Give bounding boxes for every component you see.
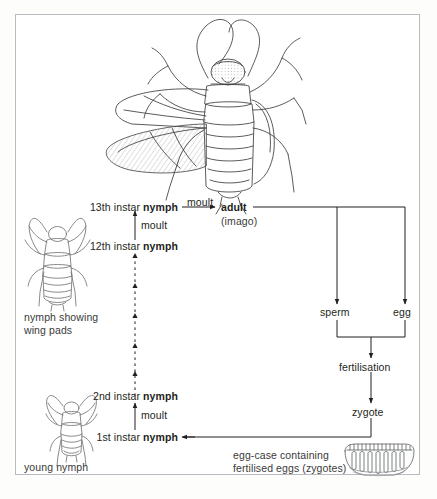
transition-label-moult-12-13: moult [141,219,167,231]
life-cycle-figure: 13th instar nymph moult moult 12th insta… [0,0,437,499]
caption-nymph-wing-pads: nymph showing wing pads [24,311,98,336]
stage-label-zygote: zygote [352,406,384,418]
stage-label-sperm: sperm [320,306,350,318]
transition-label-moult-to-adult: moult [187,196,213,208]
transition-label-moult-1-2: moult [141,409,167,421]
stage-label-1st-instar: 1st instar nymph [58,431,178,443]
stage-label-2nd-instar: 2nd instar nymph [58,390,178,402]
dashed-moult-chain [132,253,137,396]
stage-label-12th-instar: 12th instar nymph [58,240,178,252]
nymph-wing-pads-drawing [25,218,90,311]
caption-egg-case: egg-case containing fertilised eggs (zyg… [233,449,346,474]
caption-young-nymph: young nymph [24,461,88,474]
stage-label-fertilisation: fertilisation [339,361,391,373]
stage-label-13th-instar: 13th instar nymph [58,201,178,213]
stage-label-egg: egg [393,306,411,318]
egg-case-ootheca-drawing [345,444,414,476]
line-zygote-return [185,418,371,437]
stage-label-imago: (imago) [221,215,257,227]
adult-cockroach-drawing [106,19,306,214]
stage-label-adult: adult [221,201,247,213]
